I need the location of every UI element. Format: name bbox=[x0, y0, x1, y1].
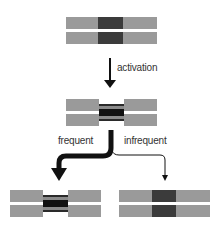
activation-label: activation bbox=[117, 62, 157, 73]
infrequent-arrow-thin bbox=[112, 150, 168, 181]
arrows-layer bbox=[0, 0, 219, 225]
infrequent-label: infrequent bbox=[124, 135, 166, 146]
activation-arrow bbox=[104, 58, 116, 88]
frequent-label: frequent bbox=[58, 135, 93, 146]
